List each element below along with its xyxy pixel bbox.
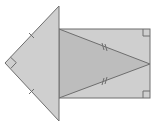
geometry-diagram [0, 0, 160, 127]
left-triangle [5, 6, 59, 121]
